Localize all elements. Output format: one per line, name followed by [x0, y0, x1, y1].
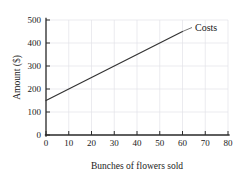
- x-tick-label-70: 70: [201, 138, 211, 148]
- y-tick-label-100: 100: [28, 107, 42, 117]
- y-tick-label-300: 300: [28, 61, 42, 71]
- x-tick-label-80: 80: [224, 138, 234, 148]
- y-tick-label-400: 400: [28, 38, 42, 48]
- series-label-costs: Costs: [195, 22, 217, 33]
- y-tick-label-500: 500: [28, 15, 42, 25]
- chart-container: 0 100 200 300 400 500 0 10 20 30 40 50 6…: [0, 0, 240, 176]
- y-axis-tick-labels: 0 100 200 300 400 500: [28, 15, 42, 140]
- vertical-gridlines: [46, 20, 228, 135]
- x-axis-tick-labels: 0 10 20 30 40 50 60 70 80: [44, 138, 233, 148]
- x-tick-label-30: 30: [110, 138, 120, 148]
- y-tick-label-200: 200: [28, 84, 42, 94]
- y-tick-label-0: 0: [37, 130, 42, 140]
- costs-label-leader: [183, 28, 193, 32]
- x-axis-title: Bunches of flowers sold: [91, 161, 183, 171]
- x-tick-label-60: 60: [178, 138, 188, 148]
- x-tick-label-50: 50: [155, 138, 165, 148]
- x-tick-label-20: 20: [87, 138, 97, 148]
- y-axis-title: Amount ($): [12, 55, 23, 100]
- x-tick-label-40: 40: [133, 138, 143, 148]
- line-chart: 0 100 200 300 400 500 0 10 20 30 40 50 6…: [0, 0, 240, 176]
- x-tick-label-0: 0: [44, 138, 49, 148]
- x-tick-label-10: 10: [64, 138, 74, 148]
